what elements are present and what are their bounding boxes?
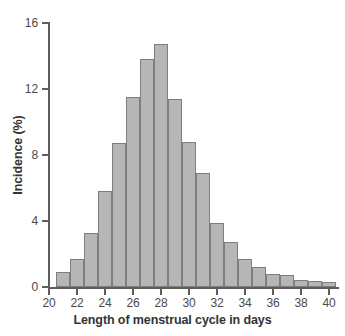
x-axis-line xyxy=(48,287,339,289)
histogram-bar xyxy=(308,281,322,287)
histogram-bar xyxy=(238,259,252,287)
x-axis-tick xyxy=(272,289,274,295)
x-axis-tick-label: 36 xyxy=(261,297,285,310)
x-axis-tick-label: 28 xyxy=(149,297,173,310)
y-axis-title: Incidence (%) xyxy=(11,80,25,230)
histogram-bar xyxy=(126,97,140,287)
histogram-bar xyxy=(56,272,70,287)
x-axis-tick xyxy=(48,289,50,295)
x-axis-tick-label: 26 xyxy=(121,297,145,310)
y-axis-tick-label: 16 xyxy=(10,17,38,29)
x-axis-tick-label: 40 xyxy=(317,297,341,310)
x-axis-tick xyxy=(188,289,190,295)
x-axis-tick-label: 24 xyxy=(93,297,117,310)
y-axis-tick xyxy=(42,286,49,288)
histogram-bar xyxy=(84,233,98,287)
y-axis-tick xyxy=(42,88,49,90)
histogram-bar xyxy=(266,274,280,287)
x-axis-tick-label: 22 xyxy=(65,297,89,310)
x-axis-tick-label: 34 xyxy=(233,297,257,310)
x-axis-tick-label: 38 xyxy=(289,297,313,310)
histogram-bar xyxy=(280,275,294,287)
x-axis-tick xyxy=(244,289,246,295)
histogram-bar xyxy=(154,44,168,287)
histogram-bar xyxy=(294,280,308,287)
x-axis-tick xyxy=(328,289,330,295)
histogram-bar xyxy=(196,173,210,287)
histogram-bar xyxy=(322,282,336,287)
histogram-bar xyxy=(70,259,84,287)
x-axis-tick-label: 30 xyxy=(177,297,201,310)
x-axis-title: Length of menstrual cycle in days xyxy=(0,313,345,327)
histogram-bar xyxy=(252,267,266,287)
x-axis-tick xyxy=(160,289,162,295)
x-axis-tick xyxy=(132,289,134,295)
x-axis-tick xyxy=(216,289,218,295)
histogram-bar xyxy=(168,99,182,287)
histogram-bar xyxy=(210,223,224,287)
histogram-bar xyxy=(182,142,196,287)
x-axis-tick xyxy=(76,289,78,295)
histogram-figure: 0481216 2022242628303234363840 Length of… xyxy=(0,0,345,336)
y-axis-tick xyxy=(42,220,49,222)
x-axis-tick xyxy=(300,289,302,295)
y-axis-tick xyxy=(42,22,49,24)
y-axis-tick-label: 0 xyxy=(10,281,38,293)
x-axis-tick-label: 20 xyxy=(37,297,61,310)
histogram-bar xyxy=(140,59,154,287)
x-axis-tick xyxy=(104,289,106,295)
plot-area: 0481216 2022242628303234363840 Length of… xyxy=(0,0,345,336)
y-axis-tick xyxy=(42,154,49,156)
histogram-bar xyxy=(224,242,238,287)
histogram-bar xyxy=(112,143,126,287)
histogram-bar xyxy=(98,191,112,287)
x-axis-tick-label: 32 xyxy=(205,297,229,310)
